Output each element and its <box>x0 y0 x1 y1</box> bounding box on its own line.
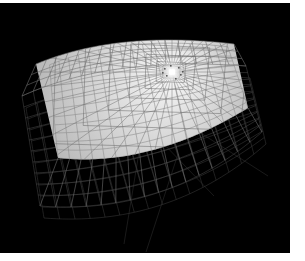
wireframe-surface-render <box>0 0 305 261</box>
figure-root: 3D wireframe mesh surface rendering Pers… <box>0 0 305 261</box>
